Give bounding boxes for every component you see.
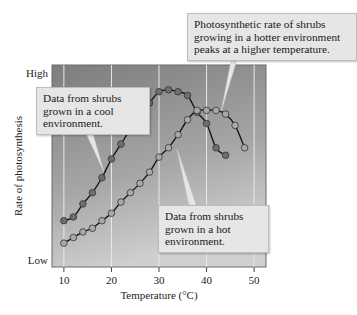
data-point-hot-44 xyxy=(222,111,229,118)
x-tick-label-50: 50 xyxy=(249,274,261,286)
data-point-hot-48 xyxy=(241,145,248,152)
data-point-hot-32 xyxy=(165,145,172,152)
data-point-hot-36 xyxy=(184,116,191,123)
y-tick-low: Low xyxy=(28,254,48,266)
data-point-cool-20 xyxy=(108,156,115,163)
x-tick-label-10: 10 xyxy=(58,274,70,286)
data-point-hot-30 xyxy=(156,154,163,161)
data-point-cool-36 xyxy=(184,92,191,99)
data-point-hot-26 xyxy=(137,180,144,187)
x-axis-label: Temperature (°C) xyxy=(120,289,198,302)
data-point-hot-42 xyxy=(213,107,220,114)
data-point-cool-16 xyxy=(89,189,96,196)
annotation-hot-peak: Photosynthetic rate of shrubs growing in… xyxy=(187,13,357,61)
data-point-hot-40 xyxy=(203,107,210,114)
data-point-cool-12 xyxy=(70,214,77,221)
data-point-hot-10 xyxy=(61,240,68,247)
data-point-hot-22 xyxy=(118,199,125,206)
data-point-hot-38 xyxy=(194,107,201,114)
x-tick-label-40: 40 xyxy=(201,274,213,286)
data-point-hot-18 xyxy=(99,217,106,224)
data-point-hot-34 xyxy=(175,131,182,138)
data-point-cool-22 xyxy=(118,141,125,148)
data-point-cool-40 xyxy=(203,120,210,127)
data-point-cool-32 xyxy=(165,87,172,94)
data-point-cool-30 xyxy=(156,88,163,95)
data-point-cool-18 xyxy=(99,174,106,181)
data-point-cool-44 xyxy=(222,152,229,159)
data-point-hot-20 xyxy=(108,210,115,217)
data-point-hot-46 xyxy=(232,122,239,129)
x-tick-label-30: 30 xyxy=(154,274,166,286)
data-point-hot-12 xyxy=(70,234,77,241)
data-point-cool-14 xyxy=(80,201,87,208)
data-point-hot-16 xyxy=(89,225,96,232)
x-tick-label-20: 20 xyxy=(106,274,118,286)
data-point-cool-42 xyxy=(213,145,220,152)
data-point-hot-28 xyxy=(146,169,153,176)
y-axis-label: Rate of photosynthesis xyxy=(12,116,24,216)
annotation-hot: Data from shrubs grown in a hot environm… xyxy=(158,205,269,253)
data-point-hot-24 xyxy=(127,189,134,196)
data-point-cool-10 xyxy=(61,217,68,224)
y-tick-high: High xyxy=(26,67,49,79)
annotation-cool: Data from shrubs grown in a cool environ… xyxy=(36,87,150,135)
data-point-hot-14 xyxy=(80,229,87,236)
data-point-cool-34 xyxy=(175,88,182,95)
